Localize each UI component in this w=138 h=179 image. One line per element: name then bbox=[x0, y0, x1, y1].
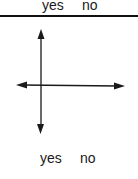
horizontal-double-arrow bbox=[16, 82, 125, 90]
bottom-no-label: no bbox=[80, 151, 96, 165]
arrow-down-icon bbox=[37, 124, 44, 134]
bottom-yes-label: yes bbox=[40, 151, 62, 165]
arrow-left-icon bbox=[16, 82, 27, 89]
arrow-right-icon bbox=[114, 83, 125, 90]
vertical-double-arrow bbox=[37, 29, 45, 134]
arrow-up-icon bbox=[38, 29, 45, 39]
bottom-label-row: yes no bbox=[0, 151, 138, 167]
